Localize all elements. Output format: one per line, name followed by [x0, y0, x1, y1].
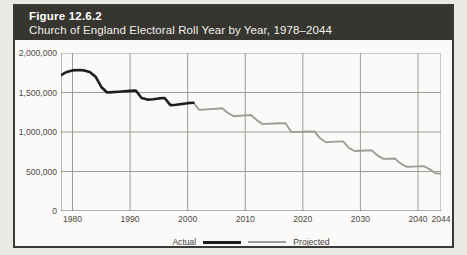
- page-background: Figure 12.6.2 Church of England Electora…: [0, 0, 467, 255]
- x-tick-label: 1990: [121, 214, 140, 224]
- x-tick-label: 2020: [293, 214, 312, 224]
- legend-label-actual: Actual: [172, 237, 196, 247]
- figure-number: Figure 12.6.2: [29, 9, 452, 23]
- y-axis-tick-labels: 0500,0001,000,0001,500,0002,000,000: [0, 53, 57, 211]
- y-tick-label: 1,500,000: [0, 88, 57, 98]
- x-tick-label: 2010: [236, 214, 255, 224]
- legend-label-projected: Projected: [293, 237, 329, 247]
- figure-container: Figure 12.6.2 Church of England Electora…: [13, 4, 454, 248]
- figure-title-band: Figure 12.6.2 Church of England Electora…: [15, 6, 452, 40]
- gridlines: [61, 53, 441, 211]
- x-tick-label: 2040: [408, 214, 427, 224]
- figure-caption: Church of England Electoral Roll Year by…: [29, 23, 452, 38]
- y-tick-label: 500,000: [0, 167, 57, 177]
- x-tick-label: 1980: [63, 214, 82, 224]
- x-tick-label: 2030: [351, 214, 370, 224]
- y-tick-label: 0: [0, 206, 57, 216]
- line-chart-svg: [61, 53, 441, 211]
- actual-series-line: [61, 70, 193, 105]
- legend-swatch-projected: [248, 241, 286, 243]
- y-tick-label: 2,000,000: [0, 48, 57, 58]
- projected-series-line: [193, 103, 441, 174]
- y-tick-label: 1,000,000: [0, 127, 57, 137]
- x-axis-tick-labels: 19801990200020102020203020402044: [61, 214, 441, 228]
- x-tick-label: 2044: [431, 214, 450, 224]
- chart-panel: 0500,0001,000,0001,500,0002,000,000 1980…: [15, 40, 452, 246]
- chart-legend: Actual Projected: [61, 235, 441, 249]
- plot-area: 0500,0001,000,0001,500,0002,000,000 1980…: [61, 53, 441, 211]
- x-tick-label: 2000: [178, 214, 197, 224]
- legend-swatch-actual: [203, 241, 241, 244]
